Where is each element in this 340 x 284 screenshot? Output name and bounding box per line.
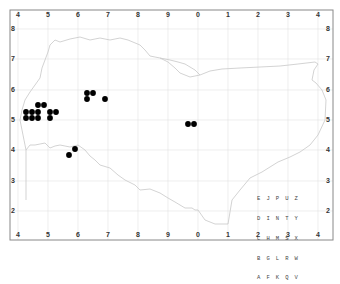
- record-dot: [29, 115, 35, 121]
- y-label-left: 5: [11, 116, 15, 123]
- y-label-right: 6: [326, 86, 330, 93]
- x-label-top: 4: [316, 11, 320, 18]
- x-label-bottom: 1: [226, 231, 230, 238]
- y-label-right: 4: [326, 146, 330, 153]
- x-label-bottom: 4: [316, 231, 320, 238]
- record-dot: [84, 90, 90, 96]
- record-dot: [35, 115, 41, 121]
- tetrad-key-row: A F K Q V: [257, 275, 299, 282]
- x-label-bottom: 4: [16, 231, 20, 238]
- x-label-bottom: 0: [196, 231, 200, 238]
- record-dot: [23, 115, 29, 121]
- y-label-right: 7: [326, 55, 330, 62]
- x-label-top: 7: [106, 11, 110, 18]
- x-label-bottom: 6: [76, 231, 80, 238]
- x-label-bottom: 9: [166, 231, 170, 238]
- record-dot: [102, 96, 108, 102]
- x-label-top: 6: [76, 11, 80, 18]
- y-label-left: 2: [11, 207, 15, 214]
- x-label-top: 3: [286, 11, 290, 18]
- x-label-top: 5: [46, 11, 50, 18]
- record-dot: [72, 146, 78, 152]
- y-label-left: 8: [11, 25, 15, 32]
- tetrad-key: E J P U Z D I N T Y C H M S X B G L R W …: [257, 183, 299, 284]
- x-label-top: 9: [166, 11, 170, 18]
- record-dot: [90, 90, 96, 96]
- x-label-top: 1: [226, 11, 230, 18]
- x-label-bottom: 5: [46, 231, 50, 238]
- x-label-top: 0: [196, 11, 200, 18]
- record-dot: [84, 96, 90, 102]
- x-label-top: 2: [256, 11, 260, 18]
- x-label-bottom: 7: [106, 231, 110, 238]
- tetrad-key-row: B G L R W: [257, 256, 299, 263]
- record-dot: [66, 152, 72, 158]
- record-dot: [53, 109, 59, 115]
- record-dot: [47, 115, 53, 121]
- x-label-top: 4: [16, 11, 20, 18]
- tetrad-key-row: D I N T Y: [257, 216, 299, 223]
- y-label-right: 8: [326, 25, 330, 32]
- x-label-bottom: 8: [136, 231, 140, 238]
- record-dot: [185, 121, 191, 127]
- y-label-right: 2: [326, 207, 330, 214]
- tetrad-key-row: E J P U Z: [257, 196, 299, 203]
- y-label-left: 7: [11, 55, 15, 62]
- y-label-left: 3: [11, 177, 15, 184]
- record-dot: [29, 109, 35, 115]
- record-dot: [47, 109, 53, 115]
- tetrad-key-row: C H M S X: [257, 236, 299, 243]
- record-dot: [191, 121, 197, 127]
- y-label-left: 6: [11, 86, 15, 93]
- y-label-right: 3: [326, 177, 330, 184]
- x-label-top: 8: [136, 11, 140, 18]
- record-dot: [35, 109, 41, 115]
- record-dot: [35, 102, 41, 108]
- y-label-right: 5: [326, 116, 330, 123]
- record-dot: [41, 102, 47, 108]
- y-label-left: 4: [11, 146, 15, 153]
- record-dot: [23, 109, 29, 115]
